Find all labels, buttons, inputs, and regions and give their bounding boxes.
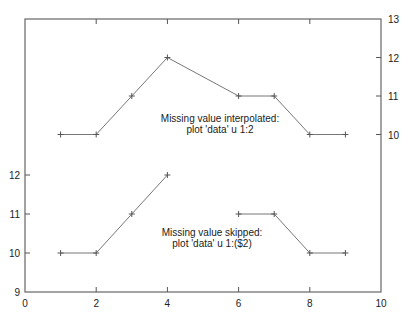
line-chart: 0 2 4 6 8 10 9 10 11 12 10 11 12 13 <box>0 0 412 319</box>
annotation-skipped: Missing value skipped: plot 'data' u 1:(… <box>162 227 263 249</box>
y-right-tick-label: 11 <box>388 91 399 102</box>
y-left-tick-label: 9 <box>14 287 20 298</box>
annotation-line: Missing value interpolated: <box>161 113 279 124</box>
y-right-tick-labels: 10 11 12 13 <box>388 14 400 141</box>
y-right-ticks <box>376 58 381 135</box>
y-left-ticks <box>25 175 30 253</box>
x-tick-labels: 0 2 4 6 8 10 <box>22 298 387 309</box>
y-right-tick-label: 10 <box>388 130 400 141</box>
y-right-tick-label: 13 <box>388 14 400 25</box>
y-left-tick-label: 10 <box>9 248 21 259</box>
x-tick-label: 2 <box>93 298 99 309</box>
x-axis-ticks <box>96 19 310 292</box>
annotation-interpolated: Missing value interpolated: plot 'data' … <box>161 113 279 135</box>
x-tick-label: 4 <box>165 298 171 309</box>
y-left-tick-labels: 9 10 11 12 <box>9 170 21 298</box>
x-tick-label: 6 <box>236 298 242 309</box>
annotation-line: Missing value skipped: <box>162 227 263 238</box>
annotation-line: plot 'data' u 1:($2) <box>172 238 251 249</box>
y-right-tick-label: 12 <box>388 53 400 64</box>
plot-frame <box>25 19 381 292</box>
x-tick-label: 8 <box>307 298 313 309</box>
annotation-line: plot 'data' u 1:2 <box>186 124 254 135</box>
y-left-tick-label: 11 <box>10 209 21 220</box>
x-tick-label: 0 <box>22 298 28 309</box>
y-left-tick-label: 12 <box>9 170 21 181</box>
x-tick-label: 10 <box>375 298 387 309</box>
